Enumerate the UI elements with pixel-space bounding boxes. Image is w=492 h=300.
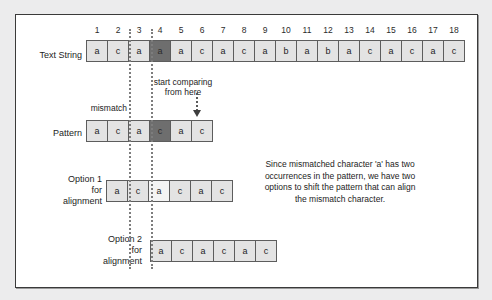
cell-text-string-17: a <box>422 40 444 62</box>
figure-canvas: Text String 123456789101112131415161718 … <box>0 0 492 300</box>
text-string-index-7: 7 <box>212 25 234 35</box>
annotation-start-comparing: start comparing from here <box>140 77 226 97</box>
cell-option1-5: a <box>190 180 212 202</box>
cell-text-string-5: a <box>170 40 192 62</box>
cell-text-string-7: a <box>212 40 234 62</box>
cell-text-string-1: a <box>86 40 108 62</box>
text-string-index-1: 1 <box>86 25 108 35</box>
cell-option1-6: c <box>211 180 233 202</box>
cell-pattern-2: c <box>107 120 129 142</box>
cell-text-string-13: a <box>338 40 360 62</box>
cell-option1-1: a <box>106 180 128 202</box>
option-2-strip: acacac <box>150 240 277 262</box>
cell-option2-6: c <box>255 240 277 262</box>
cell-option2-1: a <box>150 240 172 262</box>
pattern-strip: acacac <box>86 120 213 142</box>
cell-text-string-14: c <box>359 40 381 62</box>
explanation-note: Since mismatched character 'a' has two o… <box>260 159 420 205</box>
cell-pattern-1: a <box>86 120 108 142</box>
cell-text-string-18: c <box>443 40 465 62</box>
text-string-index-3: 3 <box>128 25 150 35</box>
cell-pattern-6: c <box>191 120 213 142</box>
cell-text-string-2: c <box>107 40 129 62</box>
text-string-index-10: 10 <box>275 25 297 35</box>
row-label-text-string: Text String <box>16 50 82 61</box>
text-string-index-6: 6 <box>191 25 213 35</box>
cell-option2-2: c <box>171 240 193 262</box>
cell-text-string-12: b <box>317 40 339 62</box>
cell-option2-3: a <box>192 240 214 262</box>
text-string-index-2: 2 <box>107 25 129 35</box>
text-string-index-16: 16 <box>401 25 423 35</box>
cell-option2-4: c <box>213 240 235 262</box>
figure-panel: Text String 123456789101112131415161718 … <box>15 14 478 288</box>
cell-text-string-8: c <box>233 40 255 62</box>
row-label-option-1: Option 1 for alignment <box>26 174 102 207</box>
cell-text-string-10: b <box>275 40 297 62</box>
text-string-index-15: 15 <box>380 25 402 35</box>
text-string-index-row: 123456789101112131415161718 <box>86 25 465 35</box>
cell-text-string-15: a <box>380 40 402 62</box>
text-string-index-9: 9 <box>254 25 276 35</box>
text-string-strip: acaaacacababacacac <box>86 40 465 62</box>
text-string-index-13: 13 <box>338 25 360 35</box>
cell-text-string-6: c <box>191 40 213 62</box>
cell-text-string-3: a <box>128 40 150 62</box>
text-string-index-18: 18 <box>443 25 465 35</box>
text-string-index-17: 17 <box>422 25 444 35</box>
cell-pattern-3: a <box>128 120 150 142</box>
guide-line-mismatch-left <box>129 29 131 269</box>
text-string-index-5: 5 <box>170 25 192 35</box>
text-string-index-12: 12 <box>317 25 339 35</box>
text-string-index-11: 11 <box>296 25 318 35</box>
guide-line-mismatch-right <box>151 29 153 269</box>
text-string-index-8: 8 <box>233 25 255 35</box>
cell-option1-4: c <box>169 180 191 202</box>
option-1-strip: acacac <box>106 180 233 202</box>
annotation-mismatch: mismatch <box>71 103 127 113</box>
cell-text-string-11: a <box>296 40 318 62</box>
cell-text-string-9: a <box>254 40 276 62</box>
text-string-index-14: 14 <box>359 25 381 35</box>
row-label-pattern: Pattern <box>16 128 82 139</box>
cell-text-string-16: c <box>401 40 423 62</box>
cell-pattern-5: a <box>170 120 192 142</box>
cell-option2-5: a <box>234 240 256 262</box>
